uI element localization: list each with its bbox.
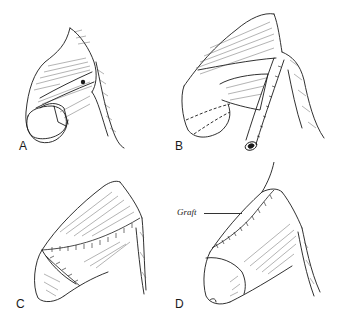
graft-label: Graft [177,208,197,217]
panel-b: B [170,0,341,162]
panel-c-drawing [0,162,170,324]
meatus-marker [81,80,85,84]
panel-a-drawing [0,0,170,162]
graft-leader-line [204,213,242,214]
panel-label-b: B [175,140,183,152]
panel-label-c: C [16,298,25,310]
panel-d-drawing [170,162,341,324]
panel-c: C [0,162,170,324]
panel-a: A [0,0,170,162]
panel-label-d: D [175,298,184,310]
panel-d: Graft D [170,162,341,324]
panel-b-drawing [170,0,341,162]
panel-label-a: A [19,140,27,152]
